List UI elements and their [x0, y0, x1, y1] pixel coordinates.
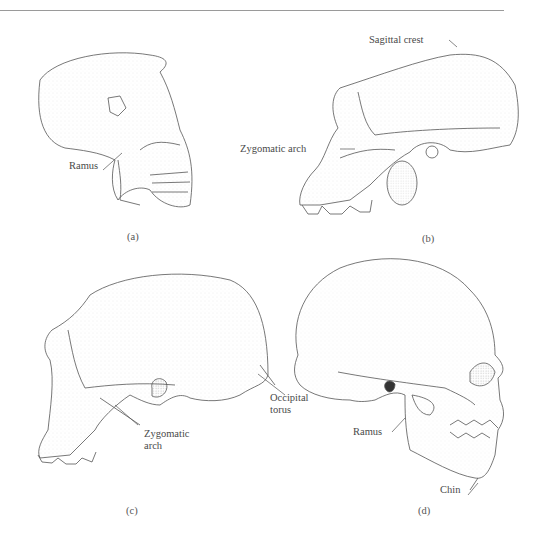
label-chin: Chin [440, 484, 460, 496]
caption-b: (b) [422, 233, 434, 244]
label-occipital-torus-line1: Occipital [270, 392, 308, 404]
label-ramus-d: Ramus [353, 426, 382, 438]
skull-a [39, 53, 192, 207]
label-zygomatic-arch-b: Zygomatic arch [240, 143, 306, 155]
caption-a: (a) [127, 231, 139, 242]
skull-b [300, 54, 519, 214]
caption-c: (c) [126, 505, 138, 516]
label-zygomatic-arch-c-line1: Zygomatic [144, 428, 190, 440]
label-occipital-torus-line2: torus [270, 404, 291, 416]
label-sagittal-crest: Sagittal crest [369, 34, 424, 46]
caption-d: (d) [418, 505, 430, 516]
skull-illustrations [0, 0, 543, 534]
label-zygomatic-arch-c-line2: arch [144, 440, 162, 452]
label-ramus-a: Ramus [69, 160, 98, 172]
skull-d [295, 259, 504, 490]
